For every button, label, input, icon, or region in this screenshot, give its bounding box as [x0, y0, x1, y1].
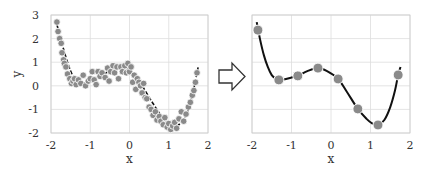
y-axis-label: y: [10, 70, 24, 78]
data-point: [162, 114, 169, 121]
data-point: [194, 70, 201, 77]
data-point: [80, 72, 87, 79]
data-point: [192, 79, 199, 86]
y-tick-label: 0: [32, 80, 39, 93]
data-point: [180, 118, 187, 125]
selected-point: [353, 104, 363, 114]
x-tick-label: 2: [205, 139, 212, 152]
data-point: [106, 78, 113, 85]
data-point: [143, 95, 150, 102]
selected-point: [293, 71, 303, 81]
data-point: [183, 111, 190, 118]
selected-point: [333, 74, 343, 84]
y-tick-label: 1: [32, 56, 39, 69]
selected-point: [313, 63, 323, 73]
y-tick-label: 2: [32, 33, 39, 46]
data-point: [58, 40, 65, 47]
right-curve-plot: -2-1012x: [247, 15, 414, 166]
data-point: [187, 99, 194, 106]
selected-point: [393, 70, 403, 80]
x-tick-label: -1: [286, 139, 297, 152]
data-point: [191, 87, 198, 94]
x-tick-label: -1: [85, 139, 96, 152]
data-point: [63, 64, 70, 71]
data-point: [93, 81, 100, 88]
data-point: [140, 80, 147, 87]
selected-point: [373, 120, 383, 130]
y-tick-label: -2: [28, 127, 39, 140]
x-tick-label: 0: [328, 139, 335, 152]
data-point: [54, 19, 61, 26]
data-point: [128, 64, 135, 71]
x-tick-label: 1: [367, 139, 374, 152]
arrow-shape: [219, 63, 245, 90]
x-tick-label: 2: [407, 139, 414, 152]
data-point: [115, 75, 122, 82]
figure-canvas: -2-1012-2-10123xy -2-1012x: [0, 0, 431, 177]
data-point: [59, 49, 66, 56]
x-axis-label: x: [328, 152, 335, 166]
data-point: [173, 125, 180, 132]
x-tick-label: 1: [165, 139, 172, 152]
selected-point: [253, 25, 263, 35]
y-tick-label: -1: [28, 103, 39, 116]
left-scatter-plot: -2-1012-2-10123xy: [10, 9, 212, 166]
x-axis-label: x: [126, 152, 133, 166]
data-point: [55, 28, 62, 35]
x-tick-label: -2: [247, 139, 258, 152]
y-tick-label: 3: [32, 9, 39, 22]
selected-point: [274, 75, 284, 85]
x-tick-label: 0: [126, 139, 133, 152]
right-arrow-icon: [219, 63, 245, 90]
x-tick-label: -2: [46, 139, 57, 152]
